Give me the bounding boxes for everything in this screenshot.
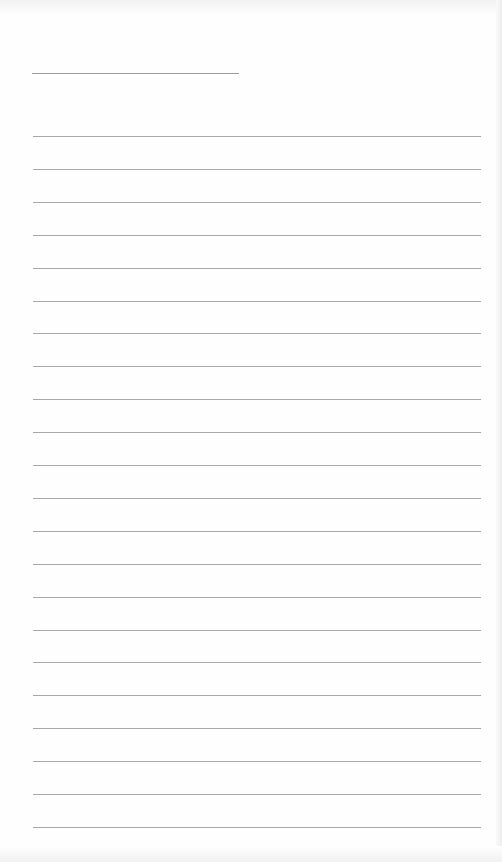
ruled-line [33,498,481,499]
ruled-line [33,531,481,532]
ruled-line [33,794,481,795]
ruled-lines [0,0,502,862]
ruled-line [33,695,481,696]
ruled-line [33,761,481,762]
ruled-line [33,301,481,302]
ruled-line [33,662,481,663]
ruled-line [33,268,481,269]
ruled-line [33,136,481,137]
ruled-line [33,366,481,367]
ruled-line [33,827,481,828]
ruled-line [33,333,481,334]
ruled-line [33,235,481,236]
ruled-line [33,169,481,170]
ruled-line [33,399,481,400]
ruled-line [33,728,481,729]
ruled-line [33,630,481,631]
ruled-line [33,597,481,598]
ruled-paper-page [0,0,502,862]
ruled-line [33,465,481,466]
ruled-line [33,564,481,565]
ruled-line [33,432,481,433]
ruled-line [33,202,481,203]
